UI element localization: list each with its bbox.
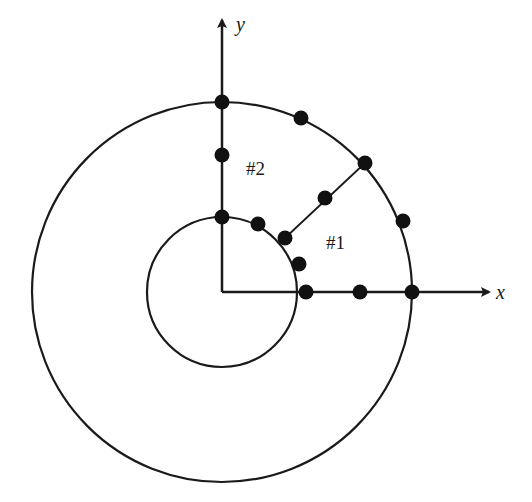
mesh-node [396,214,411,229]
mesh-node [294,111,309,126]
mesh-node [318,191,333,206]
mesh-node [215,148,230,163]
region-1-label: #1 [326,232,345,253]
mesh-node [299,285,314,300]
mesh-node [292,257,307,272]
polar-mesh-diagram: x y #1 #2 [0,0,532,502]
mesh-node [215,95,230,110]
mesh-node [215,210,230,225]
region-2-label: #2 [246,158,265,179]
x-axis-label: x [495,281,505,303]
y-axis-label: y [234,13,245,36]
mesh-node [251,217,266,232]
mesh-node [405,285,420,300]
mesh-node [353,285,368,300]
diagram-canvas: x y #1 #2 [0,0,532,502]
mesh-node [278,231,293,246]
region-labels: #1 #2 [246,158,345,253]
mesh-node [358,156,373,171]
mesh-nodes [215,95,420,300]
